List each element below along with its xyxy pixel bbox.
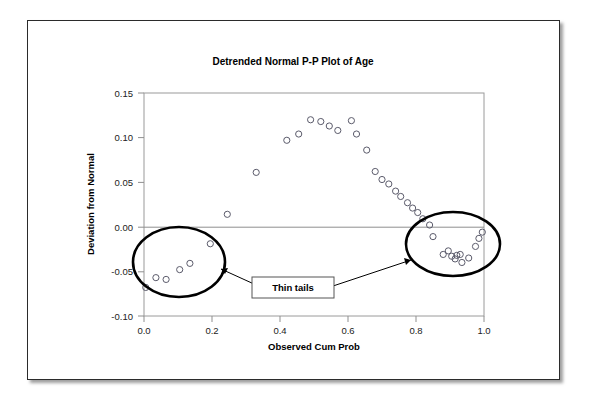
data-point — [476, 235, 482, 241]
data-point — [410, 205, 416, 211]
y-tick-label: 0.05 — [115, 177, 134, 188]
data-point — [326, 123, 332, 129]
x-tick-label: 0.4 — [273, 325, 286, 336]
data-point — [404, 200, 410, 206]
x-tick-label: 1.0 — [477, 325, 490, 336]
y-axis-title: Deviation from Normal — [85, 153, 96, 255]
y-tick-label: -0.05 — [111, 266, 133, 277]
right-tail-cluster-ellipse — [406, 212, 500, 276]
y-tick-label: 0.00 — [115, 222, 134, 233]
data-point — [364, 147, 370, 153]
data-point — [430, 234, 436, 240]
data-point — [335, 127, 341, 133]
chart-title: Detrended Normal P-P Plot of Age — [212, 56, 374, 67]
figure-frame: Detrended Normal P-P Plot of Age 0.15 0.… — [27, 20, 560, 380]
data-point — [296, 131, 302, 137]
data-point — [253, 169, 259, 175]
y-tick-label: -0.10 — [111, 311, 133, 322]
x-tick-label: 0.0 — [137, 325, 150, 336]
data-point — [177, 267, 183, 273]
data-point — [153, 275, 159, 281]
data-point-series — [143, 117, 486, 291]
data-point — [284, 137, 290, 143]
left-tail-cluster-ellipse — [133, 227, 225, 297]
data-point — [318, 118, 324, 124]
data-point — [466, 255, 472, 261]
data-point — [348, 118, 354, 124]
data-point — [398, 193, 404, 199]
data-point — [353, 131, 359, 137]
x-tick-label: 0.2 — [205, 325, 218, 336]
data-point — [207, 241, 213, 247]
x-axis-tick-labels: 0.0 0.2 0.4 0.6 0.8 1.0 — [137, 325, 490, 336]
data-point — [393, 188, 399, 194]
detrended-pp-plot: Detrended Normal P-P Plot of Age 0.15 0.… — [28, 21, 558, 378]
x-axis-title: Observed Cum Prob — [268, 341, 360, 352]
data-point — [379, 176, 385, 182]
y-tick-label: 0.15 — [115, 88, 134, 99]
x-axis-ticks — [144, 316, 484, 322]
data-point — [224, 211, 230, 217]
data-point — [372, 168, 378, 174]
x-tick-label: 0.6 — [341, 325, 354, 336]
y-tick-label: 0.10 — [115, 132, 134, 143]
y-axis-tick-labels: 0.15 0.10 0.05 0.00 -0.05 -0.10 — [111, 88, 133, 322]
data-point — [163, 276, 169, 282]
data-point — [472, 243, 478, 249]
data-point — [415, 209, 421, 215]
thin-tails-label: Thin tails — [272, 282, 314, 293]
x-tick-label: 0.8 — [409, 325, 422, 336]
data-point — [187, 260, 193, 266]
data-point — [386, 181, 392, 187]
data-point — [308, 117, 314, 123]
data-point — [459, 259, 465, 265]
